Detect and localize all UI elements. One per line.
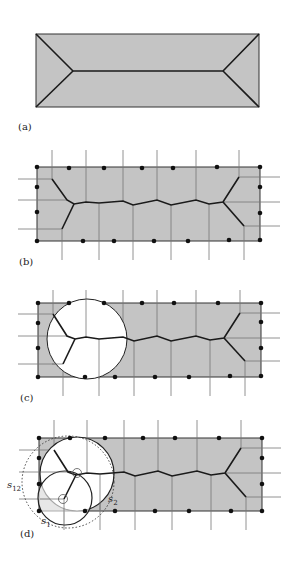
s1-sub: 1 — [46, 521, 50, 529]
panel-a-label: (a) — [18, 121, 32, 132]
s2-sub: 2 — [113, 499, 117, 507]
s1-label: s1 — [41, 515, 51, 529]
panel-b-label: (b) — [19, 256, 33, 267]
panel-c-label: (c) — [20, 392, 33, 403]
panel-d-diagram — [19, 420, 281, 530]
panel-d-label: (d) — [20, 528, 34, 539]
s12-label: s12 — [7, 479, 21, 493]
panel-c-diagram — [18, 290, 280, 396]
panel-a-diagram — [36, 34, 259, 107]
panel-b-diagram — [18, 150, 280, 260]
s2-label: s2 — [108, 493, 118, 507]
s12-sub: 12 — [12, 485, 21, 493]
medial-axis-figure — [0, 0, 298, 565]
